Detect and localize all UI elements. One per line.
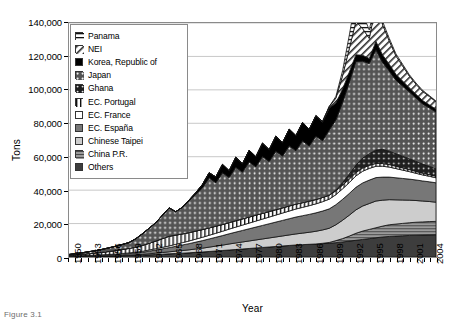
legend-swatch-icon — [75, 32, 83, 40]
x-tick-mark — [350, 258, 351, 262]
x-tick-label: 2004 — [434, 243, 445, 264]
legend-swatch-icon — [75, 98, 83, 106]
y-tick-label: 40,000 — [34, 185, 62, 196]
legend-item-label: Ghana — [88, 83, 113, 93]
x-tick-label: 1983 — [293, 243, 304, 264]
y-tick-mark — [64, 56, 68, 57]
legend-item: EC. Portugal — [75, 95, 183, 108]
legend-swatch-icon — [75, 84, 83, 92]
x-axis-tick-labels: 1950195319561959196219651968197119741977… — [68, 264, 437, 306]
x-tick-mark — [330, 258, 331, 262]
x-tick-label: 1980 — [273, 243, 284, 264]
x-tick-mark — [390, 258, 391, 262]
x-axis-label: Year — [68, 303, 437, 314]
y-tick-mark — [64, 191, 68, 192]
x-tick-label: 1965 — [173, 243, 184, 264]
y-tick-label: 100,000 — [28, 84, 62, 95]
legend-item-label: China P.R. — [88, 149, 127, 159]
y-tick-mark — [64, 157, 68, 158]
legend-item-label: Korea, Republic of — [88, 57, 157, 67]
x-tick-mark — [249, 258, 250, 262]
y-axis-ticks: 020,00040,00060,00080,000100,000120,0001… — [0, 0, 62, 280]
x-tick-mark — [68, 258, 69, 262]
legend-item: Japan — [75, 69, 183, 82]
x-tick-mark — [189, 258, 190, 262]
x-tick-label: 1950 — [72, 243, 83, 264]
legend-item: Korea, Republic of — [75, 55, 183, 68]
legend-item-label: EC. España — [88, 123, 133, 133]
legend-item: NEI — [75, 42, 183, 55]
legend-swatch-icon — [75, 58, 83, 66]
legend-swatch-icon — [75, 111, 83, 119]
y-tick-mark — [64, 89, 68, 90]
legend-item: Panama — [75, 29, 183, 42]
legend-item: Ghana — [75, 82, 183, 95]
y-tick-mark — [64, 224, 68, 225]
x-tick-mark — [108, 258, 109, 262]
x-tick-label: 1992 — [354, 243, 365, 264]
legend-item: EC. France — [75, 108, 183, 121]
figure-caption: Figure 3.1 — [4, 310, 42, 319]
x-tick-mark — [269, 258, 270, 262]
legend-swatch-icon — [75, 124, 83, 132]
x-tick-mark — [88, 258, 89, 262]
x-tick-mark — [169, 258, 170, 262]
x-tick-label: 1989 — [334, 243, 345, 264]
x-tick-mark — [289, 258, 290, 262]
y-tick-label: 140,000 — [28, 17, 62, 28]
x-tick-mark — [430, 258, 431, 262]
x-tick-mark — [370, 258, 371, 262]
legend-item-label: Panama — [88, 31, 119, 41]
legend-swatch-icon — [75, 163, 83, 171]
x-tick-label: 1995 — [374, 243, 385, 264]
legend-swatch-icon — [75, 45, 83, 53]
x-tick-mark — [229, 258, 230, 262]
x-tick-label: 2001 — [414, 243, 425, 264]
x-tick-label: 1998 — [394, 243, 405, 264]
x-tick-label: 1974 — [233, 243, 244, 264]
legend-item: Others — [75, 161, 183, 174]
legend-item-label: Japan — [88, 70, 111, 80]
x-tick-mark — [410, 258, 411, 262]
legend-swatch-icon — [75, 71, 83, 79]
y-tick-mark — [64, 123, 68, 124]
x-tick-label: 1962 — [153, 243, 164, 264]
x-tick-mark — [128, 258, 129, 262]
legend-item-label: Others — [88, 162, 113, 172]
y-tick-label: 0 — [57, 253, 62, 264]
y-tick-label: 60,000 — [34, 151, 62, 162]
legend-item-label: EC. France — [88, 110, 130, 120]
legend-item-label: Chinese Taipei — [88, 136, 143, 146]
y-tick-mark — [64, 22, 68, 23]
y-tick-mark — [64, 258, 68, 259]
x-tick-label: 1959 — [132, 243, 143, 264]
legend-item: China P.R. — [75, 148, 183, 161]
y-tick-label: 80,000 — [34, 118, 62, 129]
legend-item: EC. España — [75, 121, 183, 134]
x-tick-label: 1986 — [314, 243, 325, 264]
legend-item: Chinese Taipei — [75, 135, 183, 148]
x-tick-label: 1968 — [193, 243, 204, 264]
x-tick-label: 1971 — [213, 243, 224, 264]
legend-item-label: EC. Portugal — [88, 97, 136, 107]
legend-item-label: NEI — [88, 44, 102, 54]
y-tick-label: 120,000 — [28, 50, 62, 61]
x-tick-label: 1956 — [112, 243, 123, 264]
x-tick-mark — [209, 258, 210, 262]
chart-legend: PanamaNEIKorea, Republic ofJapanGhanaEC.… — [70, 24, 188, 179]
x-tick-label: 1977 — [253, 243, 264, 264]
legend-swatch-icon — [75, 150, 83, 158]
y-tick-label: 20,000 — [34, 219, 62, 230]
x-tick-label: 1953 — [92, 243, 103, 264]
x-tick-mark — [310, 258, 311, 262]
legend-swatch-icon — [75, 137, 83, 145]
x-tick-mark — [149, 258, 150, 262]
